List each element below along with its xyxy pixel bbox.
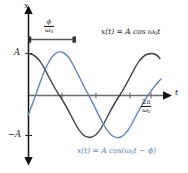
eq-ref-equals: = <box>117 27 123 36</box>
eq-ref-rhs-post: t <box>157 27 160 36</box>
eq-ref-lhs: x(t) <box>101 27 114 36</box>
phase-shift-cosine-figure: x t A −A ϕ ω0 2π ω0 x(t) = A cos ω0t x(t… <box>0 0 188 173</box>
eq-shift-equals: = <box>93 146 99 155</box>
phase-shift-denominator-sub: 0 <box>50 29 53 34</box>
eq-shift-rhs-pre: A cos( <box>101 146 124 155</box>
equation-shifted-label: x(t) = A cos(ω0t − ϕ) <box>77 147 156 155</box>
axis-t-label: t <box>175 89 178 97</box>
eq-ref-rhs-pre: A cos <box>125 27 148 36</box>
eq-shift-rhs-mid: t − ϕ) <box>134 146 156 155</box>
period-tick-label: 2π ω0 <box>141 99 151 114</box>
eq-shift-lhs: x(t) <box>77 146 90 155</box>
tick-label-negative-amplitude: −A <box>8 130 21 139</box>
axis-x-label: x <box>24 2 29 10</box>
phase-shift-label: ϕ ω0 <box>44 19 54 34</box>
period-denominator-sub: 0 <box>147 109 150 114</box>
x-axis <box>24 6 32 166</box>
tick-label-amplitude: A <box>14 48 20 57</box>
equation-reference-label: x(t) = A cos ω0t <box>101 28 160 36</box>
phase-shift-marker <box>28 37 76 43</box>
